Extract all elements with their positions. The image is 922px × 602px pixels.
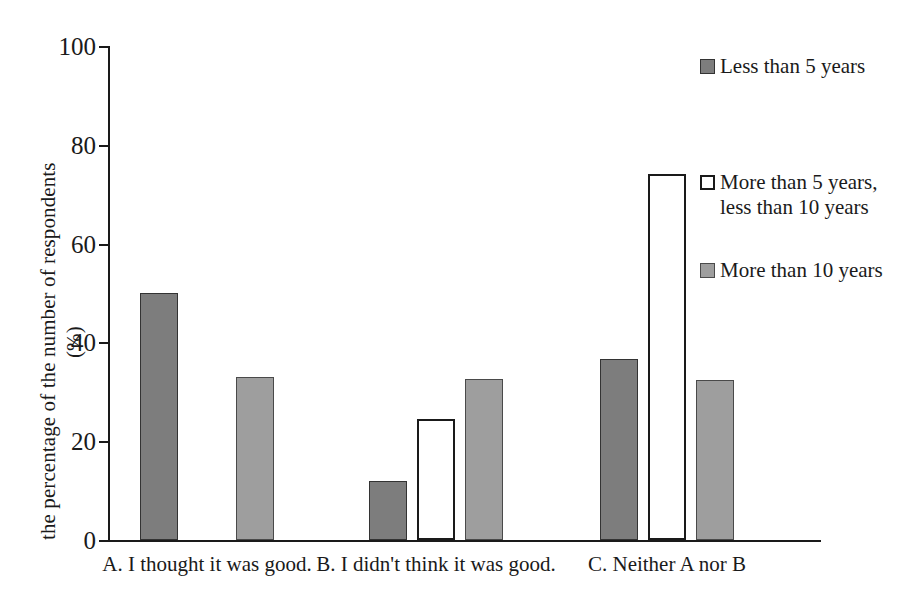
y-axis-title: the percentage of the number of responde…	[0, 0, 60, 602]
bar	[417, 419, 455, 540]
bar-chart: the percentage of the number of responde…	[0, 0, 922, 602]
bar	[140, 293, 178, 540]
legend-item-less-than-5-years: Less than 5 years	[700, 54, 865, 79]
x-axis-category-label: C. Neither A nor B	[588, 552, 746, 577]
x-axis-line	[108, 540, 821, 542]
bar	[236, 377, 274, 540]
legend-label: More than 10 years	[720, 258, 883, 283]
y-axis-line	[108, 46, 110, 542]
y-axis-tick-mark	[99, 244, 109, 246]
legend-label: Less than 5 years	[720, 54, 865, 79]
y-axis-tick-label: 0	[84, 528, 97, 553]
bar	[600, 359, 638, 540]
plot-area: 020406080100 A. I thought it was good.B.…	[108, 46, 878, 542]
bar	[465, 379, 503, 540]
y-axis-tick-mark	[99, 342, 109, 344]
bar	[369, 481, 407, 540]
y-axis-tick-mark	[99, 540, 109, 542]
legend-label: More than 5 years, less than 10 years	[720, 170, 877, 220]
y-axis-tick-label: 80	[71, 132, 96, 157]
x-axis-category-label: B. I didn't think it was good.	[316, 552, 555, 577]
y-axis-tick-label: 100	[59, 34, 97, 59]
y-axis-tick-mark	[99, 46, 109, 48]
bar	[648, 174, 686, 540]
bar	[696, 380, 734, 540]
y-axis-tick-label: 60	[71, 231, 96, 256]
y-axis-tick-label: 20	[71, 429, 96, 454]
y-axis-title-text: the percentage of the number of responde…	[36, 163, 61, 541]
legend-item-more-than-5-less-than-10-years: More than 5 years, less than 10 years	[700, 170, 877, 220]
legend-swatch-icon	[700, 263, 715, 278]
y-axis-tick-label: 40	[71, 330, 96, 355]
y-axis-tick-mark	[99, 441, 109, 443]
legend-swatch-icon	[700, 59, 715, 74]
x-axis-category-label: A. I thought it was good.	[102, 552, 311, 577]
y-axis-tick-mark	[99, 145, 109, 147]
legend-item-more-than-10-years: More than 10 years	[700, 258, 883, 283]
legend-swatch-icon	[700, 175, 715, 190]
